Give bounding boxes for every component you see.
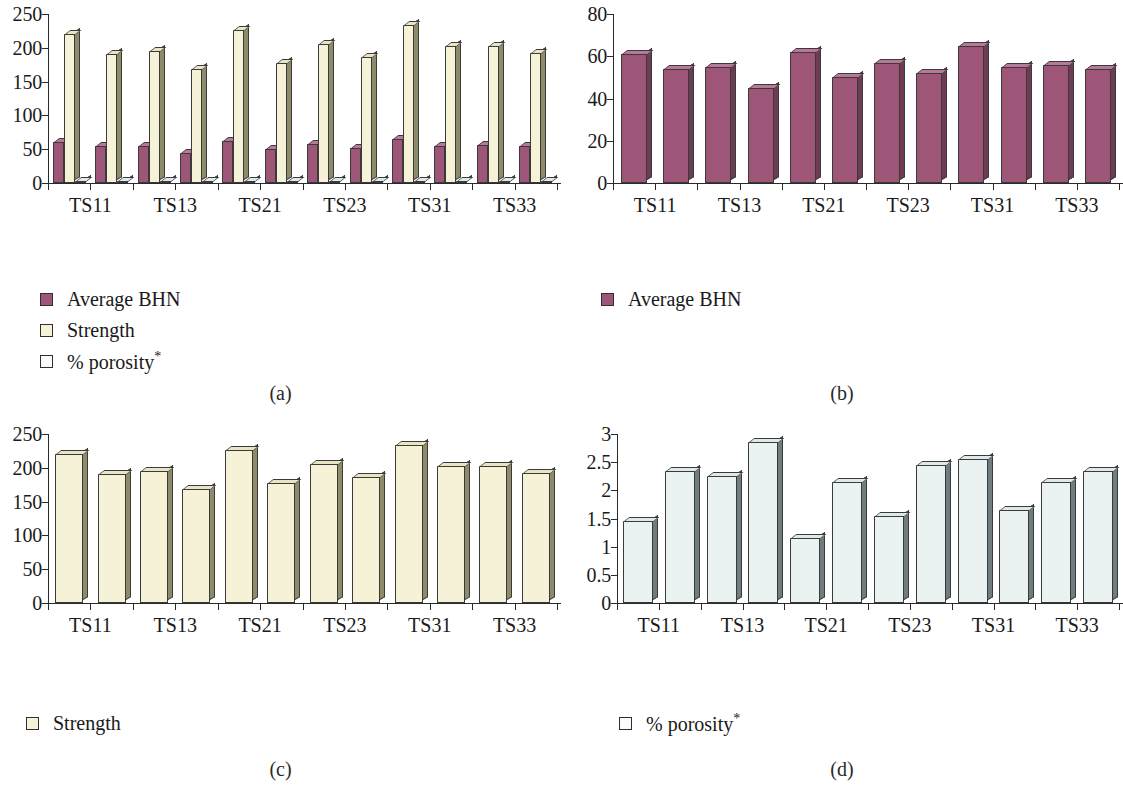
bar-side xyxy=(83,448,88,600)
bar-face xyxy=(149,51,160,183)
x-tick-mark xyxy=(260,604,261,610)
bar xyxy=(456,181,467,183)
bar-top xyxy=(140,467,174,472)
bar-top xyxy=(916,461,952,466)
bar xyxy=(530,53,541,183)
bar-face xyxy=(180,153,191,183)
bar-side xyxy=(695,464,700,599)
x-tick-mark xyxy=(387,604,388,610)
x-tick-mark xyxy=(993,184,994,190)
x-tick-mark xyxy=(701,604,702,610)
bar xyxy=(64,34,75,183)
bar-face xyxy=(621,54,647,183)
bar-face xyxy=(790,538,820,603)
x-tick-label: TS33 xyxy=(1055,195,1098,215)
bar-side xyxy=(900,56,905,180)
legend-item: Average BHN xyxy=(40,288,180,310)
bar-side xyxy=(731,61,736,180)
bar xyxy=(182,489,210,603)
bar-face xyxy=(276,63,287,183)
bar xyxy=(350,148,361,183)
x-tick-label: TS23 xyxy=(323,615,366,635)
bar-side xyxy=(984,40,989,180)
bar xyxy=(276,63,287,183)
bar xyxy=(445,46,456,183)
bar xyxy=(874,63,900,183)
x-tick-mark xyxy=(655,184,656,190)
legend-swatch-porosity xyxy=(40,355,53,368)
bar-face xyxy=(307,144,318,183)
x-tick-label: TS13 xyxy=(154,615,197,635)
bar-face xyxy=(916,465,946,603)
x-tick-label: TS23 xyxy=(888,615,931,635)
bar xyxy=(479,466,507,603)
bar-face xyxy=(748,88,774,183)
bar xyxy=(916,465,946,603)
x-tick-mark xyxy=(950,184,951,190)
x-tick-label: TS33 xyxy=(493,615,536,635)
bar-side xyxy=(1071,476,1076,600)
bar xyxy=(225,450,253,603)
panel-d-legend: % porosity* xyxy=(619,712,740,743)
bar xyxy=(267,483,295,603)
panel-a-plot: 050100150200250TS11TS13TS21TS23TS31TS33 xyxy=(0,0,561,245)
bar-face xyxy=(479,466,507,603)
bar-top xyxy=(707,472,743,477)
bar-face xyxy=(222,141,233,183)
bar-top xyxy=(395,441,429,446)
x-tick-mark xyxy=(866,184,867,190)
bar xyxy=(98,474,126,603)
bar xyxy=(1085,69,1111,183)
bar xyxy=(403,25,414,183)
bar xyxy=(519,146,530,183)
bar xyxy=(265,149,276,183)
bar-face xyxy=(395,445,423,603)
bar-side xyxy=(295,477,300,600)
x-tick-label: TS13 xyxy=(154,195,197,215)
bar xyxy=(488,46,499,183)
bar-face xyxy=(663,69,689,183)
bar-face xyxy=(1041,482,1071,603)
panel-b-plot: 020406080TS11TS13TS21TS23TS31TS33 xyxy=(561,0,1123,245)
bar xyxy=(55,454,83,603)
bar-side xyxy=(168,464,173,600)
x-tick-label: TS13 xyxy=(721,615,764,635)
bar xyxy=(541,181,552,183)
bar-side xyxy=(862,476,867,600)
bar-face xyxy=(55,454,83,603)
x-tick-mark xyxy=(260,184,261,190)
bar-face xyxy=(477,145,488,183)
x-tick-mark xyxy=(557,604,558,610)
x-tick-label: TS13 xyxy=(718,195,761,215)
bar xyxy=(75,181,86,183)
x-tick-mark xyxy=(48,604,49,610)
bar-face xyxy=(530,53,541,183)
bar-face xyxy=(958,46,984,183)
bar-face xyxy=(350,148,361,183)
panel-c: 050100150200250TS11TS13TS21TS23TS31TS33 … xyxy=(0,400,561,788)
x-tick-label: TS21 xyxy=(238,615,281,635)
bar xyxy=(665,471,695,603)
legend-item: % porosity* xyxy=(619,712,740,734)
bar xyxy=(287,181,298,183)
panel-a-legend: Average BHNStrength% porosity* xyxy=(40,288,180,381)
bar xyxy=(748,88,774,183)
bar xyxy=(395,445,423,603)
bar-face xyxy=(874,63,900,183)
legend-swatch-bhn xyxy=(601,293,614,306)
bar xyxy=(522,473,550,603)
bar-side xyxy=(126,468,131,600)
bar-side xyxy=(160,44,165,180)
x-tick-mark xyxy=(430,184,431,190)
bar-face xyxy=(106,54,117,183)
x-tick-mark xyxy=(515,604,516,610)
bar xyxy=(999,510,1029,603)
panel-c-caption: (c) xyxy=(0,758,561,781)
bar-face xyxy=(707,476,737,603)
bar xyxy=(95,146,106,183)
legend-swatch-porosity xyxy=(619,717,632,730)
x-tick-label: TS33 xyxy=(493,195,536,215)
x-tick-mark xyxy=(1035,604,1036,610)
bar xyxy=(160,181,171,183)
panel-c-legend: Strength xyxy=(26,712,121,743)
